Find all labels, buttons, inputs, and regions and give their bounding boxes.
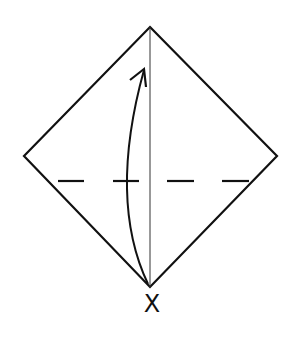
origami-diagram — [0, 0, 300, 338]
corner-label-x: X — [140, 290, 164, 318]
